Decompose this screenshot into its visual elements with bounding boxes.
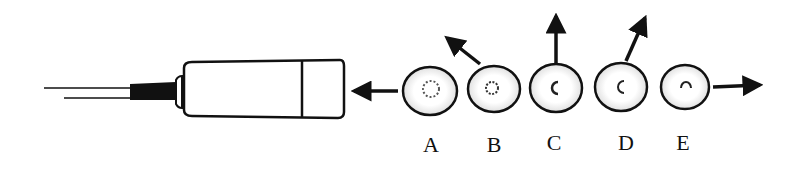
cell-e	[661, 65, 709, 109]
cell-d	[595, 63, 647, 111]
cell-b	[468, 66, 520, 112]
cell-a	[403, 67, 457, 115]
label-c: C	[547, 130, 562, 156]
arrow-up-right-icon	[626, 18, 645, 61]
arrow-up-left-icon	[447, 38, 480, 64]
label-b: B	[487, 132, 502, 158]
arrow-right-icon	[713, 85, 760, 87]
cell-c	[530, 64, 582, 112]
label-a: A	[423, 132, 439, 158]
pipette-icon	[44, 60, 344, 118]
label-e: E	[676, 130, 689, 156]
label-d: D	[618, 130, 634, 156]
